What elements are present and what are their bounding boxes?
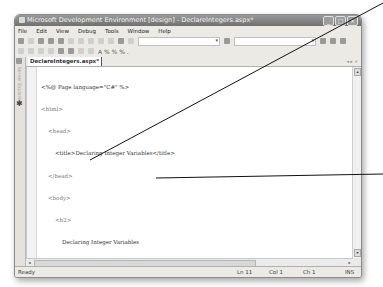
tab-controls[interactable]: ◂ ▸ × (347, 57, 358, 66)
chevron-down-icon: ▾ (215, 37, 218, 43)
code-line: <body> (41, 195, 351, 202)
complete-word-icon[interactable] (48, 48, 54, 54)
solution-explorer-icon[interactable] (320, 38, 326, 44)
cut-icon[interactable] (68, 38, 74, 44)
code-line: <html> (41, 106, 351, 113)
find-in-files-icon[interactable] (224, 38, 230, 44)
menu-window[interactable]: Window (128, 26, 150, 36)
toolbox-toggle-icon[interactable] (340, 38, 346, 44)
chevron-down-icon: ▾ (311, 37, 314, 43)
tab-declareintegers[interactable]: DeclareIntegers.aspx* (28, 57, 102, 66)
text-editor-toolbar: A % % % . (15, 46, 361, 56)
outdent-icon[interactable] (58, 48, 64, 54)
menu-bar: File Edit View Debug Tools Window Help (15, 26, 361, 36)
code-line: <%@ Page language="C#" %> (41, 84, 351, 91)
character-number: Ch 1 (303, 267, 316, 277)
maximize-button[interactable]: □ (335, 16, 346, 26)
side-tool-strip: Server Explorer ✱ (15, 57, 26, 267)
title-bar: Microsoft Development Environment [desig… (15, 15, 361, 26)
toolbox-icon[interactable]: ✱ (16, 99, 23, 108)
menu-file[interactable]: File (18, 26, 27, 36)
code-editor[interactable]: <%@ Page language="C#" %> <html> <head> … (26, 67, 353, 258)
scroll-right-button[interactable]: ▸ (347, 260, 352, 265)
undo-icon[interactable] (98, 38, 104, 44)
copy-icon[interactable] (78, 38, 84, 44)
configuration-dropdown[interactable]: ▾ (138, 37, 220, 46)
scroll-down-button[interactable]: ▾ (354, 249, 361, 257)
code-line: <head> (41, 128, 351, 135)
close-button[interactable]: × (347, 16, 358, 26)
scroll-left-button[interactable]: ◂ (27, 260, 32, 265)
redo-icon[interactable] (108, 38, 114, 44)
status-bar: Ready Ln 11 Col 1 Ch 1 INS (15, 266, 361, 277)
status-text: Ready (18, 267, 35, 277)
ide-window: Microsoft Development Environment [desig… (14, 14, 362, 278)
menu-edit[interactable]: Edit (36, 26, 47, 36)
window-title: Microsoft Development Environment [desig… (27, 16, 253, 24)
standard-toolbar: ▾ ▾ (15, 36, 361, 46)
menu-debug[interactable]: Debug (78, 26, 96, 36)
search-dropdown[interactable]: ▾ (234, 37, 316, 46)
start-debug-icon[interactable] (118, 38, 124, 44)
server-explorer-tab[interactable]: Server Explorer (17, 67, 22, 102)
save-all-icon[interactable] (58, 38, 64, 44)
scroll-up-button[interactable]: ▴ (354, 68, 361, 76)
code-line: </head> (41, 173, 351, 180)
quick-info-icon[interactable] (38, 48, 44, 54)
parameter-info-icon[interactable] (28, 48, 34, 54)
bookmark-tools[interactable]: A % % % . (98, 48, 129, 55)
code-text[interactable]: <%@ Page language="C#" %> <html> <head> … (41, 69, 351, 278)
add-item-icon[interactable] (28, 38, 34, 44)
paste-icon[interactable] (88, 38, 94, 44)
line-number: Ln 11 (237, 267, 252, 277)
minimize-button[interactable]: _ (323, 16, 334, 26)
save-icon[interactable] (48, 38, 54, 44)
list-members-icon[interactable] (18, 48, 24, 54)
code-line: Declaring Integer Variables (41, 239, 351, 246)
find-icon[interactable] (128, 38, 134, 44)
menu-view[interactable]: View (56, 26, 69, 36)
editor-gutter (27, 67, 37, 258)
menu-help[interactable]: Help (158, 26, 171, 36)
column-number: Col 1 (269, 267, 283, 277)
vertical-scrollbar[interactable]: ▴ ▾ (352, 67, 361, 258)
comment-icon[interactable] (78, 48, 84, 54)
menu-tools[interactable]: Tools (105, 26, 119, 36)
document-tab-bar: DeclareIntegers.aspx* ◂ ▸ × (26, 57, 361, 67)
server-explorer-icon[interactable] (16, 58, 22, 64)
new-project-icon[interactable] (18, 38, 24, 44)
open-icon[interactable] (38, 38, 44, 44)
uncomment-icon[interactable] (88, 48, 94, 54)
properties-icon[interactable] (330, 38, 336, 44)
app-icon (19, 17, 25, 23)
code-line: <h2> (41, 217, 351, 224)
insert-mode: INS (345, 267, 354, 277)
code-line: <title>Declaring Integer Variables</titl… (41, 150, 351, 157)
indent-icon[interactable] (68, 48, 74, 54)
